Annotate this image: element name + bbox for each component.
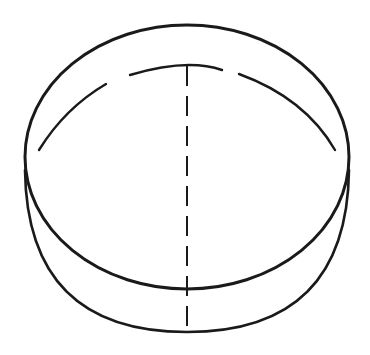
hidden-back-arc-left [39, 84, 106, 150]
cylinder-diagram [0, 0, 370, 355]
hidden-back-arc-right [239, 74, 335, 150]
hidden-back-arc-center [130, 65, 222, 75]
